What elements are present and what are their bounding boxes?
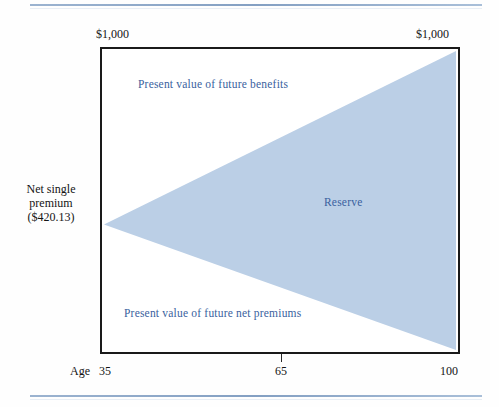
net-single-premium-line-2: premium xyxy=(8,196,94,210)
label-present-value-future-net-premiums: Present value of future net premiums xyxy=(124,307,301,319)
top-rule xyxy=(30,4,482,6)
top-rule-hairline xyxy=(30,8,482,9)
figure-caption-fragment xyxy=(30,0,482,3)
x-axis-title: Age xyxy=(70,364,90,379)
x-tick-label-65: 65 xyxy=(275,364,287,379)
plot-frame: Present value of future benefits Reserve… xyxy=(100,47,460,354)
x-tick-label-35: 35 xyxy=(99,364,111,379)
figure-root: Present value of future benefits Reserve… xyxy=(0,0,499,407)
net-single-premium-annotation: Net single premium ($420.13) xyxy=(8,182,94,224)
label-reserve: Reserve xyxy=(324,196,362,208)
x-tick-mark-65 xyxy=(281,354,282,362)
label-present-value-future-benefits: Present value of future benefits xyxy=(138,78,288,90)
reserve-wedge-area xyxy=(104,51,456,350)
bottom-rule xyxy=(30,395,482,397)
top-right-value-label: $1,000 xyxy=(416,27,449,42)
x-tick-label-100: 100 xyxy=(440,364,458,379)
top-left-value-label: $1,000 xyxy=(96,27,129,42)
net-single-premium-line-3: ($420.13) xyxy=(8,210,94,224)
net-single-premium-line-1: Net single xyxy=(8,182,94,196)
bottom-rule-hairline xyxy=(30,399,482,400)
